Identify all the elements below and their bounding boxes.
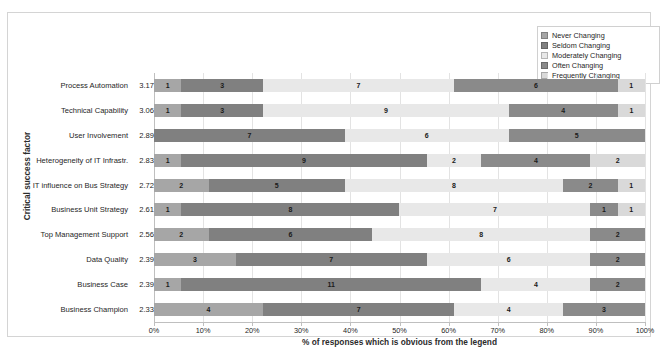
chart-frame: Never ChangingSeldom ChangingModerately …	[7, 12, 651, 337]
bar-segment[interactable]: 7	[263, 303, 454, 316]
bar-segment[interactable]: 4	[481, 278, 590, 291]
legend-item[interactable]: Seldom Changing	[541, 40, 655, 50]
x-tick-label: 60%	[441, 326, 456, 335]
x-tick-label: 80%	[539, 326, 554, 335]
bar-segment[interactable]: 6	[454, 79, 618, 92]
bar-segment[interactable]: 3	[181, 104, 263, 117]
bar-segment[interactable]: 7	[263, 79, 454, 92]
category-mean-value: 2.56	[128, 230, 154, 239]
x-tick-label: 70%	[490, 326, 505, 335]
bar-segment[interactable]: 6	[427, 253, 591, 266]
x-axis-ticks: 0%10%20%30%40%50%60%70%80%90%100%	[154, 323, 645, 335]
bar-segment[interactable]: 4	[481, 154, 590, 167]
bar-segment[interactable]: 6	[345, 129, 509, 142]
legend-item[interactable]: Often Changing	[541, 60, 655, 70]
bar-row: 25821	[154, 179, 645, 192]
bar-row: 2682	[154, 228, 645, 241]
legend-item[interactable]: Never Changing	[541, 30, 655, 40]
bar-segment[interactable]: 8	[345, 179, 563, 192]
bar-row: 765	[154, 129, 645, 142]
bar-segment[interactable]: 2	[590, 253, 645, 266]
bar-segment[interactable]: 2	[590, 278, 645, 291]
category-mean-value: 2.39	[128, 255, 154, 264]
legend-item-label: Often Changing	[552, 61, 603, 70]
bar-segment[interactable]: 1	[154, 79, 181, 92]
bar-row: 13761	[154, 79, 645, 92]
bar-segment[interactable]: 1	[590, 203, 617, 216]
category-label-row: Business Case2.39	[32, 278, 154, 291]
bar-segment[interactable]: 4	[154, 303, 263, 316]
x-tick-label: 100%	[636, 326, 655, 335]
bar-segment[interactable]: 1	[154, 104, 181, 117]
bar-segment[interactable]: 2	[427, 154, 482, 167]
category-label-row: Business Champion2.33	[32, 303, 154, 316]
bar-segment[interactable]: 4	[509, 104, 618, 117]
bar-segment[interactable]: 1	[154, 278, 181, 291]
legend-swatch-icon	[541, 42, 548, 49]
bar-segment[interactable]: 8	[181, 203, 399, 216]
bar-segment[interactable]: 3	[181, 79, 263, 92]
category-label-row: IT influence on Bus Strategy2.72	[32, 179, 154, 192]
legend-swatch-icon	[541, 62, 548, 69]
bar-segment[interactable]: 2	[590, 228, 645, 241]
bar-row: 13941	[154, 104, 645, 117]
bar-segment[interactable]: 2	[563, 179, 618, 192]
bar-segment[interactable]: 7	[154, 129, 345, 142]
x-tick-label: 50%	[392, 326, 407, 335]
bar-segment[interactable]: 1	[618, 104, 645, 117]
x-axis-title: % of responses which is obvious from the…	[154, 337, 645, 347]
category-label-row: Heterogeneity of IT Infrastr.2.83	[32, 154, 154, 167]
category-mean-value: 2.72	[128, 181, 154, 190]
legend-item-label: Never Changing	[552, 31, 605, 40]
bar-row: 19242	[154, 154, 645, 167]
bar-segment[interactable]: 5	[509, 129, 645, 142]
bar-segment[interactable]: 7	[399, 203, 590, 216]
category-mean-value: 2.89	[128, 131, 154, 140]
bar-segment[interactable]: 1	[154, 203, 181, 216]
bar-segment[interactable]: 4	[454, 303, 563, 316]
bar-segment[interactable]: 2	[154, 228, 209, 241]
bar-segment[interactable]: 1	[618, 203, 645, 216]
category-name: Process Automation	[60, 81, 128, 90]
bar-segment[interactable]: 2	[154, 179, 209, 192]
category-name: Data Quality	[86, 255, 128, 264]
bar-segment[interactable]: 7	[236, 253, 427, 266]
bar-segment[interactable]: 3	[563, 303, 645, 316]
category-label-row: Process Automation3.17	[32, 79, 154, 92]
bar-segment[interactable]: 1	[154, 154, 181, 167]
category-name: Business Case	[77, 280, 128, 289]
bar-segment[interactable]: 5	[209, 179, 345, 192]
bar-segment[interactable]: 1	[618, 179, 645, 192]
bar-segment[interactable]: 11	[181, 278, 481, 291]
category-name: Business Unit Strategy	[51, 205, 128, 214]
bar-segment[interactable]: 2	[590, 154, 645, 167]
category-name: Heterogeneity of IT Infrastr.	[36, 156, 128, 165]
x-tick-label: 30%	[294, 326, 309, 335]
category-mean-value: 2.33	[128, 305, 154, 314]
bar-segment[interactable]: 6	[209, 228, 373, 241]
category-mean-value: 2.83	[128, 156, 154, 165]
category-name: User Involvement	[69, 131, 128, 140]
bar-segment[interactable]: 3	[154, 253, 236, 266]
category-label-row: Data Quality2.39	[32, 253, 154, 266]
category-name: IT influence on Bus Strategy	[33, 181, 128, 190]
category-label-row: User Involvement2.89	[32, 129, 154, 142]
legend-swatch-icon	[541, 32, 548, 39]
x-tick-label: 0%	[149, 326, 160, 335]
legend-item[interactable]: Moderately Changing	[541, 50, 655, 60]
category-label-row: Business Unit Strategy2.61	[32, 203, 154, 216]
y-axis-title-text: Critical success factor	[22, 131, 32, 220]
bar-row: 4743	[154, 303, 645, 316]
category-mean-value: 3.17	[128, 81, 154, 90]
x-tick-label: 40%	[343, 326, 358, 335]
bar-segment[interactable]: 9	[181, 154, 427, 167]
bar-row: 3762	[154, 253, 645, 266]
bar-segment[interactable]: 9	[263, 104, 509, 117]
bar-segment[interactable]: 8	[372, 228, 590, 241]
gridline	[645, 73, 646, 322]
plot-area: 1376113941765192422582118711268237621114…	[154, 73, 645, 322]
category-name: Top Management Support	[41, 230, 128, 239]
x-tick-label: 10%	[196, 326, 211, 335]
bar-segment[interactable]: 1	[618, 79, 645, 92]
category-label-row: Technical Capability3.06	[32, 104, 154, 117]
